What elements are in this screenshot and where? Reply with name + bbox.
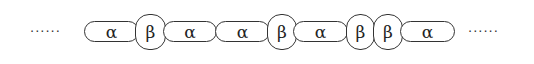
right-ellipsis: ······ bbox=[468, 24, 499, 39]
beta-segment-1: β bbox=[135, 14, 166, 50]
alpha-segment-5: α bbox=[400, 21, 455, 42]
alpha-segment-1: α bbox=[84, 21, 139, 42]
beta-segment-4: β bbox=[373, 14, 403, 50]
alpha-segment-3: α bbox=[215, 21, 270, 42]
alpha-segment-4: α bbox=[293, 21, 348, 42]
left-ellipsis: ······ bbox=[30, 24, 61, 39]
alpha-segment-2: α bbox=[163, 21, 217, 42]
beta-segment-3: β bbox=[346, 14, 375, 50]
